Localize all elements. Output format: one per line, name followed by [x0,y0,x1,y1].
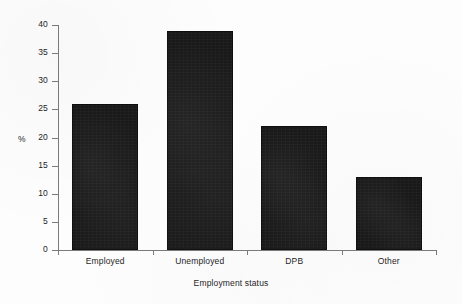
y-axis-tick-label-wrap: 20 [0,133,48,143]
y-axis-tick [52,53,58,54]
x-axis-tick [58,250,59,255]
bar-chart: % 0510152025303540 EmployedUnemployedDPB… [0,0,462,304]
x-axis-tick [247,250,248,255]
y-axis-tick-label: 5 [14,217,48,226]
y-axis-line [58,25,59,251]
y-axis-tick-label-wrap: 30 [0,76,48,86]
x-axis-tick-label: Unemployed [153,257,248,266]
bar [356,177,422,250]
y-axis-tick [52,166,58,167]
y-axis-tick-label: 0 [14,245,48,254]
y-axis-tick-label-wrap: 0 [0,245,48,255]
chart-page: % 0510152025303540 EmployedUnemployedDPB… [0,0,462,304]
y-axis-tick-label-wrap: 15 [0,161,48,171]
x-axis-tick-label: Employed [58,257,153,266]
bar [72,104,138,250]
y-axis-tick-label: 35 [14,48,48,57]
y-axis-tick-label-wrap: 25 [0,104,48,114]
y-axis-tick [52,194,58,195]
y-axis-tick [52,81,58,82]
y-axis-tick-label: 10 [14,189,48,198]
y-axis-tick-label-wrap: 5 [0,217,48,227]
x-axis-tick [153,250,154,255]
x-axis-tick-label: DPB [247,257,342,266]
y-axis-tick-label: 30 [14,76,48,85]
y-axis-tick-label-wrap: 10 [0,189,48,199]
x-axis-tick [342,250,343,255]
y-axis-tick [52,25,58,26]
y-axis-tick [52,109,58,110]
y-axis-tick-label: 25 [14,104,48,113]
y-axis-tick [52,138,58,139]
y-axis-tick-label: 20 [14,133,48,142]
y-axis-tick-label: 15 [14,161,48,170]
bar [167,31,233,250]
bar [261,126,327,250]
y-axis-tick-label-wrap: 35 [0,48,48,58]
y-axis-tick [52,222,58,223]
x-axis-tick-label: Other [342,257,437,266]
x-axis-title: Employment status [0,278,462,288]
y-axis-tick-label: 40 [14,20,48,29]
y-axis-tick-label-wrap: 40 [0,20,48,30]
x-axis-tick [436,250,437,255]
